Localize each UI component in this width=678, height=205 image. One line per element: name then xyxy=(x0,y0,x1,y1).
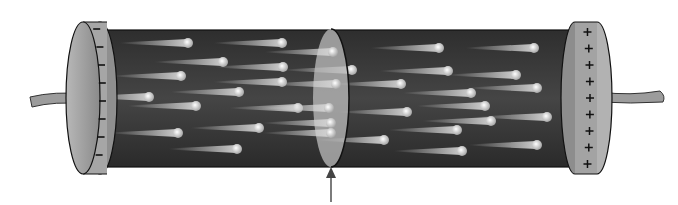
negative-end-cap xyxy=(66,22,117,174)
conductor-diagram xyxy=(0,0,678,205)
cylinder-illustration xyxy=(0,0,678,205)
cross-section-arrow xyxy=(326,167,336,202)
positive-end-cap xyxy=(561,22,612,174)
